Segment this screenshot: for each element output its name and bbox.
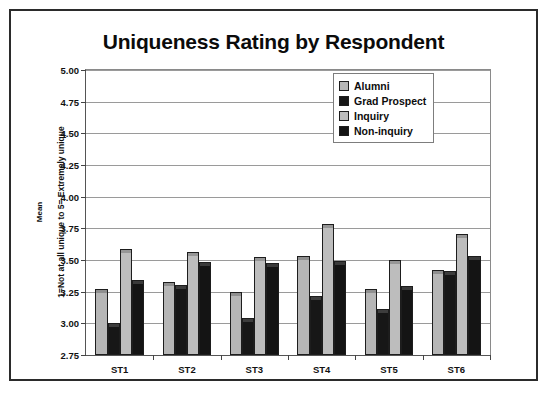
bar-group [432,70,480,355]
bar-cap [377,309,389,313]
legend-item-label: Grad Prospect [354,95,426,107]
x-axis-tick [288,355,289,360]
bar-inquiry-st1[interactable] [120,252,132,355]
bar-cap [456,234,468,238]
chart-frame: Uniqueness Rating by Respondent Mean 1=N… [9,9,538,381]
x-axis-tick [153,355,154,360]
bar-cap [401,286,413,290]
bar-cap [468,256,480,260]
bar-grad-prospect-st1[interactable] [108,326,120,355]
y-axis-tick-label: 4.00 [61,191,80,202]
x-axis-tick [221,355,222,360]
legend-item[interactable]: Non-inquiry [339,123,426,138]
bar-cap [163,282,175,286]
y-axis-title-mean: Mean [35,201,44,221]
legend-item-label: Alumni [354,80,390,92]
bar-cap [175,285,187,289]
x-axis-tick-label: ST1 [111,364,128,375]
bar-non-inquiry-st3[interactable] [266,266,278,355]
bar-alumni-st4[interactable] [297,259,309,355]
bar-cap [310,296,322,300]
bar-non-inquiry-st6[interactable] [468,259,480,355]
bar-cap [95,289,107,293]
bar-non-inquiry-st4[interactable] [334,264,346,355]
x-axis-tick-label: ST3 [246,364,263,375]
bar-grad-prospect-st4[interactable] [310,299,322,355]
bar-alumni-st6[interactable] [432,273,444,355]
bar-group [163,70,211,355]
y-axis-tick-label: 5.00 [61,65,80,76]
legend-item[interactable]: Grad Prospect [339,93,426,108]
y-axis-tick [81,355,86,356]
bar-group [95,70,143,355]
legend-item-label: Non-inquiry [354,125,413,137]
bar-alumni-st5[interactable] [365,292,377,355]
bar-non-inquiry-st2[interactable] [199,265,211,355]
x-axis-tick [423,355,424,360]
bar-cap [266,263,278,267]
y-axis-tick-label: 3.25 [61,286,80,297]
bar-alumni-st3[interactable] [230,295,242,355]
bar-cap [108,323,120,327]
bar-cap [444,271,456,275]
bar-cap [230,292,242,296]
x-axis-tick-label: ST4 [313,364,330,375]
bar-group [230,70,278,355]
bar-cap [199,262,211,266]
x-axis-tick-label: ST6 [448,364,465,375]
x-axis-tick-label: ST5 [380,364,397,375]
bar-cap [297,256,309,260]
y-axis-title-scale: 1=Not at all unique to 5= Extremely uniq… [56,126,66,297]
bar-cap [334,261,346,265]
bar-cap [187,252,199,256]
legend-swatch-icon [339,81,349,91]
legend-swatch-icon [339,96,349,106]
legend-swatch-icon [339,126,349,136]
bar-inquiry-st6[interactable] [456,237,468,355]
bar-inquiry-st3[interactable] [254,260,266,355]
y-axis-tick-label: 2.75 [61,350,80,361]
y-axis-tick-label: 4.25 [61,160,80,171]
y-axis-tick-label: 4.75 [61,96,80,107]
bar-alumni-st2[interactable] [163,285,175,355]
x-axis-tick [490,355,491,360]
x-axis-tick [355,355,356,360]
bar-cap [432,270,444,274]
legend-item[interactable]: Alumni [339,78,426,93]
bar-cap [254,257,266,261]
bar-cap [322,224,334,228]
bar-grad-prospect-st3[interactable] [242,321,254,355]
legend-swatch-icon [339,111,349,121]
x-axis-tick-label: ST2 [178,364,195,375]
bar-inquiry-st5[interactable] [389,263,401,355]
y-axis-tick-label: 4.50 [61,128,80,139]
bar-cap [365,289,377,293]
bar-grad-prospect-st6[interactable] [444,274,456,355]
y-axis-tick-label: 3.50 [61,255,80,266]
bar-non-inquiry-st5[interactable] [401,289,413,355]
bar-grad-prospect-st5[interactable] [377,312,389,355]
bar-cap [120,249,132,253]
bar-inquiry-st2[interactable] [187,255,199,355]
y-axis-title-group: Mean 1=Not at all unique to 5= Extremely… [31,69,75,354]
bar-grad-prospect-st2[interactable] [175,288,187,355]
legend-item[interactable]: Inquiry [339,108,426,123]
bar-cap [132,280,144,284]
bar-cap [389,260,401,264]
bar-non-inquiry-st1[interactable] [132,283,144,355]
bar-cap [242,318,254,322]
legend-item-label: Inquiry [354,110,389,122]
legend: AlumniGrad ProspectInquiryNon-inquiry [333,73,434,143]
bar-alumni-st1[interactable] [95,292,107,355]
y-axis-tick-label: 3.00 [61,318,80,329]
y-axis-tick-label: 3.75 [61,223,80,234]
bar-inquiry-st4[interactable] [322,227,334,355]
chart-title: Uniqueness Rating by Respondent [11,30,536,54]
